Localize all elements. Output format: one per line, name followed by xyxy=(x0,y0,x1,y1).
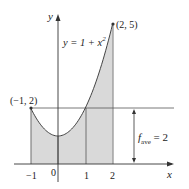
x-axis-arrow-icon xyxy=(167,162,174,167)
point-left-label: (−1, 2) xyxy=(10,95,37,107)
x-tick-label-m1: −1 xyxy=(26,170,37,181)
point-right-marker xyxy=(111,22,114,25)
average-value-diagram: y x (2, 5) (−1, 2) y = 1 + x2 fave = 2 −… xyxy=(0,0,189,189)
arrow-down-icon xyxy=(132,158,136,163)
x-tick-label-1: 1 xyxy=(84,170,89,181)
x-tick-label-2: 2 xyxy=(110,170,115,181)
average-label-value: = 2 xyxy=(151,131,168,143)
y-axis-arrow-icon xyxy=(56,14,61,21)
x-axis-label: x xyxy=(166,168,172,180)
point-right-label: (2, 5) xyxy=(116,19,138,31)
y-axis-label: y xyxy=(47,10,53,22)
arrow-up-icon xyxy=(132,109,136,114)
function-label: y = 1 + x2 xyxy=(62,35,106,48)
diagram-canvas: y x (2, 5) (−1, 2) y = 1 + x2 fave = 2 −… xyxy=(0,0,189,189)
function-label-exponent: 2 xyxy=(102,35,106,43)
x-tick-label-0: 0 xyxy=(51,167,56,178)
average-label: fave = 2 xyxy=(138,131,168,146)
function-label-base: y = 1 + x xyxy=(62,37,103,48)
average-label-sub: ave xyxy=(141,138,151,146)
point-left-marker xyxy=(29,106,32,109)
